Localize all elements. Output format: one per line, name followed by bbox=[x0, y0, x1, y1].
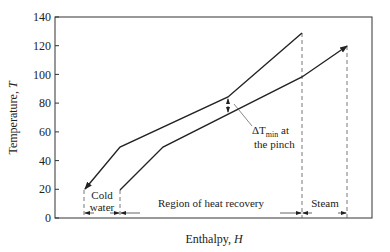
y-axis bbox=[55, 17, 59, 218]
cold-water-label: water bbox=[90, 201, 115, 213]
y-tick-label: 80 bbox=[39, 96, 51, 110]
pinch-annotation: ΔTmin at bbox=[252, 124, 289, 139]
y-tick-label: 140 bbox=[33, 10, 51, 24]
y-tick-label: 60 bbox=[39, 125, 51, 139]
y-tick-label: 0 bbox=[45, 211, 51, 225]
cold-stream-curve bbox=[120, 46, 347, 190]
steam-label: Steam bbox=[311, 197, 339, 209]
chart: 0 20 40 60 80 100 120 140 Temperature, T… bbox=[0, 0, 390, 252]
x-axis-label: Enthalpy, H bbox=[185, 232, 244, 246]
y-tick-label: 40 bbox=[39, 154, 51, 168]
y-axis-label: Temperature, T bbox=[6, 80, 20, 154]
y-tick-label: 100 bbox=[33, 68, 51, 82]
heat-recovery-label: Region of heat recovery bbox=[158, 197, 264, 209]
hot-stream-curve bbox=[85, 33, 302, 189]
plot-frame bbox=[55, 17, 372, 218]
pinch-annotation: the pinch bbox=[254, 138, 295, 150]
y-tick-label: 120 bbox=[33, 39, 51, 53]
region-dividers bbox=[84, 33, 347, 218]
y-tick-label: 20 bbox=[39, 182, 51, 196]
cold-water-label: Cold bbox=[91, 189, 113, 201]
